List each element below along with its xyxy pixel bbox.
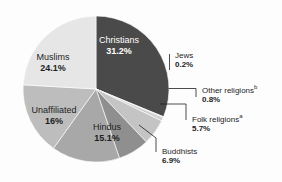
callout-buddhists-name: Buddhists — [162, 145, 197, 156]
slice-label-hindus-value: 15.1% — [78, 133, 136, 144]
slice-label-muslims-name: Muslims — [22, 52, 84, 63]
callout-jews-name: Jews — [175, 49, 193, 60]
callout-other-religions: Other religionsb 0.8% — [202, 84, 257, 105]
slice-label-muslims-value: 24.1% — [22, 63, 84, 74]
callout-other-religions-name: Other religionsb — [202, 84, 257, 95]
callout-other-religions-footnote: b — [254, 84, 257, 90]
chart-canvas: Christians 31.2% Muslims 24.1% Unaffilia… — [0, 0, 282, 182]
slice-label-muslims: Muslims 24.1% — [22, 52, 84, 73]
callout-folk-religions-value: 5.7% — [192, 124, 242, 134]
callout-buddhists-value: 6.9% — [162, 156, 197, 166]
callout-jews: Jews 0.2% — [175, 49, 193, 70]
slice-label-christians: Christians 31.2% — [88, 35, 150, 56]
callout-folk-religions-name: Folk religionsa — [192, 113, 242, 124]
slice-label-hindus-name: Hindus — [78, 122, 136, 133]
callout-jews-value: 0.2% — [175, 60, 193, 70]
callout-other-religions-value: 0.8% — [202, 95, 257, 105]
callout-buddhists: Buddhists 6.9% — [162, 145, 197, 166]
slice-label-christians-name: Christians — [88, 35, 150, 46]
slice-label-christians-value: 31.2% — [88, 46, 150, 57]
slice-label-hindus: Hindus 15.1% — [78, 122, 136, 143]
callout-folk-religions: Folk religionsa 5.7% — [192, 113, 242, 134]
slice-label-unaffiliated-name: Unaffiliated — [18, 105, 90, 116]
leader-line-other-religions — [169, 89, 197, 98]
callout-folk-religions-footnote: a — [239, 113, 242, 119]
